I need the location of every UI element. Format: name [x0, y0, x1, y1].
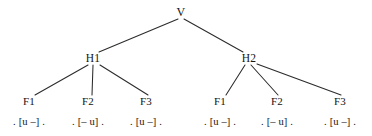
edge-v-h2 — [184, 19, 243, 52]
bracket-close: ] — [95, 116, 99, 127]
node-foot-h1-f2: F2 — [82, 95, 94, 107]
prosodic-tree-diagram: V H1 H2 F1 F2 F3 F1 F2 F3 .[u–]. .[–u]. … — [0, 0, 372, 136]
bracket-close: ] — [153, 116, 157, 127]
bracket-close: ] — [347, 116, 351, 127]
syllable-boundary-dot: . — [290, 116, 293, 127]
terminal-bracket-4: .[u–]. — [204, 116, 236, 128]
syllable-boundary-dot: . — [233, 116, 236, 127]
terminal-bracket-3: .[u–]. — [130, 116, 162, 128]
edge-v-h1 — [99, 19, 178, 52]
node-foot-h2-f3: F3 — [334, 95, 346, 107]
terminal-bracket-6: .[u–]. — [324, 116, 356, 128]
weight-mark-first: u — [213, 116, 218, 127]
syllable-boundary-dot: . — [324, 116, 327, 127]
bracket-close: ] — [284, 116, 288, 127]
terminal-bracket-2: .[–u]. — [72, 116, 104, 128]
node-verse-root: V — [177, 6, 186, 18]
edge-h1-f3 — [100, 65, 148, 95]
weight-mark-first: – — [270, 116, 275, 127]
syllable-boundary-dot: . — [101, 116, 104, 127]
syllable-boundary-dot: . — [204, 116, 207, 127]
terminal-bracket-1: .[u–]. — [13, 116, 45, 128]
node-foot-h2-f1: F1 — [214, 95, 226, 107]
bracket-close: ] — [227, 116, 231, 127]
node-foot-h1-f3: F3 — [140, 95, 152, 107]
syllable-boundary-dot: . — [159, 116, 162, 127]
node-halfline-h1: H1 — [86, 52, 100, 64]
node-halfline-h2: H2 — [242, 52, 256, 64]
syllable-boundary-dot: . — [42, 116, 45, 127]
node-foot-h2-f2: F2 — [271, 95, 283, 107]
node-foot-h1-f1: F1 — [23, 95, 35, 107]
syllable-boundary-dot: . — [72, 116, 75, 127]
edge-h1-f2 — [92, 65, 93, 95]
bracket-close: ] — [36, 116, 40, 127]
tree-edge-layer — [0, 0, 372, 136]
edge-h2-f3 — [257, 64, 341, 95]
weight-mark-first: u — [333, 116, 338, 127]
syllable-boundary-dot: . — [353, 116, 356, 127]
terminal-bracket-5: .[–u]. — [261, 116, 293, 128]
weight-mark-first: – — [81, 116, 86, 127]
syllable-boundary-dot: . — [13, 116, 16, 127]
edge-h2-f1 — [226, 65, 245, 95]
weight-mark-first: u — [139, 116, 144, 127]
syllable-boundary-dot: . — [261, 116, 264, 127]
edge-h1-f1 — [35, 65, 88, 95]
weight-mark-first: u — [22, 116, 27, 127]
edge-h2-f2 — [251, 65, 278, 95]
syllable-boundary-dot: . — [130, 116, 133, 127]
